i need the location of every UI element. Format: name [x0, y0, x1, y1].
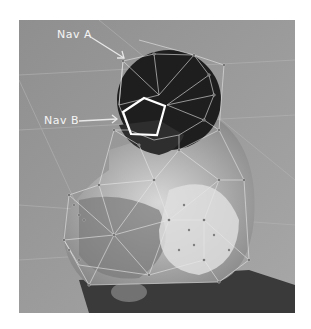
photo-canvas — [19, 20, 295, 313]
label-nav-a: Nav A — [57, 28, 92, 41]
label-nav-b: Nav B — [44, 114, 79, 127]
annotated-photo: Nav A Nav B — [19, 20, 295, 313]
